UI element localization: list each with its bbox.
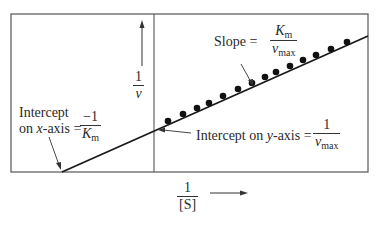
slope-den-sub: max xyxy=(278,47,295,58)
x-label-numerator: 1 xyxy=(182,181,193,196)
x-intercept-pointer-head-icon xyxy=(56,162,61,170)
x-intercept-suffix: -axis = xyxy=(43,121,82,136)
slope-prefix: Slope = xyxy=(214,34,257,49)
slope-pointer-icon xyxy=(241,64,251,82)
data-point xyxy=(220,93,227,100)
slope-num-sub: m xyxy=(285,29,293,40)
y-intercept-suffix: -axis = xyxy=(273,128,312,143)
x-intercept-num: −1 xyxy=(81,110,100,125)
x-arrowhead-icon xyxy=(240,191,248,196)
y-intercept-fraction: 1 vmax xyxy=(313,118,340,150)
y-intercept-num: 1 xyxy=(321,118,332,133)
y-axis-label: 1 v xyxy=(133,70,144,101)
x-intercept-fraction: −1 Km xyxy=(80,110,101,142)
y-intercept-text: Intercept on y-axis = xyxy=(196,128,312,143)
data-point xyxy=(273,69,280,76)
data-point xyxy=(262,74,269,81)
data-point xyxy=(180,111,187,118)
y-label-numerator: 1 xyxy=(133,70,144,85)
y-intercept-prefix: Intercept on xyxy=(196,128,267,143)
data-point xyxy=(313,52,320,59)
data-point xyxy=(235,86,242,93)
data-point xyxy=(165,118,172,125)
data-point xyxy=(287,63,294,70)
x-intercept-pointer-icon xyxy=(49,137,59,165)
data-points xyxy=(165,39,351,125)
data-point xyxy=(344,39,351,46)
slope-num: K xyxy=(275,23,284,38)
slope-fraction: Km vmax xyxy=(270,24,297,57)
data-point xyxy=(194,105,201,112)
data-point xyxy=(206,100,213,107)
x-label-denominator: [S] xyxy=(177,196,198,212)
x-intercept-prefix: on xyxy=(19,121,37,136)
data-point xyxy=(328,46,335,53)
y-intercept-pointer-icon xyxy=(163,130,191,133)
y-arrowhead-icon xyxy=(140,20,145,28)
x-intercept-den-sub: m xyxy=(91,132,99,143)
x-intercept-den: K xyxy=(82,126,91,141)
regression-line xyxy=(62,36,368,172)
y-label-denominator: v xyxy=(133,85,143,101)
x-intercept-line1: Intercept xyxy=(19,105,69,120)
data-point xyxy=(300,57,307,64)
x-axis-label: 1 [S] xyxy=(177,181,198,212)
y-intercept-den-sub: max xyxy=(321,140,338,151)
x-intercept-line2: on x-axis = xyxy=(19,121,81,136)
